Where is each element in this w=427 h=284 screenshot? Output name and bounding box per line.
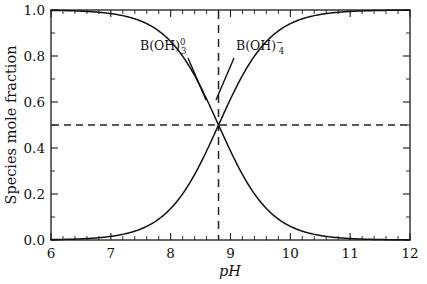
figure-container: 6789101112 0.00.20.40.60.81.0 B(OH)03 B(… (0, 0, 427, 284)
y-tick-label: 0.8 (24, 48, 45, 64)
chart-background (0, 0, 427, 284)
y-tick-label: 0.2 (24, 186, 45, 202)
x-tick-label: 6 (47, 245, 56, 261)
y-tick-label: 0.0 (24, 232, 45, 248)
y-tick-label: 1.0 (24, 2, 45, 18)
x-tick-label: 10 (282, 245, 299, 261)
species-distribution-chart: 6789101112 0.00.20.40.60.81.0 B(OH)03 B(… (0, 0, 427, 284)
x-tick-label: 11 (342, 245, 359, 261)
x-tick-label: 8 (166, 245, 175, 261)
x-axis-label: pH (219, 263, 241, 279)
y-axis-label: Species mole fraction (3, 45, 19, 204)
y-tick-label: 0.6 (24, 94, 45, 110)
y-tick-label: 0.4 (24, 140, 45, 156)
x-tick-label: 7 (107, 245, 116, 261)
x-tick-label: 12 (401, 245, 418, 261)
x-tick-label: 9 (226, 245, 235, 261)
